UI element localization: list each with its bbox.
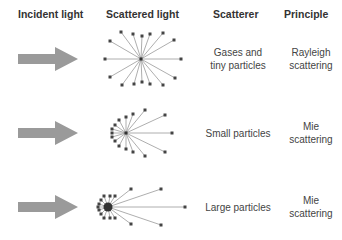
principle-line1: Mie: [282, 194, 340, 207]
principle-mie-small: Mie scattering: [282, 120, 340, 146]
scatterer-large: Large particles: [200, 201, 276, 214]
mie-small-scattering-pattern-icon: [112, 110, 172, 156]
principle-line1: Rayleigh: [282, 46, 340, 59]
principle-rayleigh: Rayleigh scattering: [282, 46, 340, 72]
scatterer-line1: Large particles: [200, 201, 276, 214]
scatterer-line1: Gases and: [204, 46, 272, 59]
principle-line2: scattering: [282, 133, 340, 146]
principle-line2: scattering: [282, 207, 340, 220]
incident-arrow-icon: [18, 195, 78, 219]
principle-line1: Mie: [282, 120, 340, 133]
scatterer-small: Small particles: [200, 127, 276, 140]
incident-arrow-icon: [18, 47, 78, 71]
principle-mie-large: Mie scattering: [282, 194, 340, 220]
scatterer-line2: tiny particles: [204, 59, 272, 72]
incident-arrow-icon: [18, 121, 78, 145]
scatterer-gases: Gases and tiny particles: [204, 46, 272, 72]
rayleigh-scattering-pattern-icon: [105, 32, 181, 85]
scatterer-line1: Small particles: [200, 127, 276, 140]
principle-line2: scattering: [282, 59, 340, 72]
